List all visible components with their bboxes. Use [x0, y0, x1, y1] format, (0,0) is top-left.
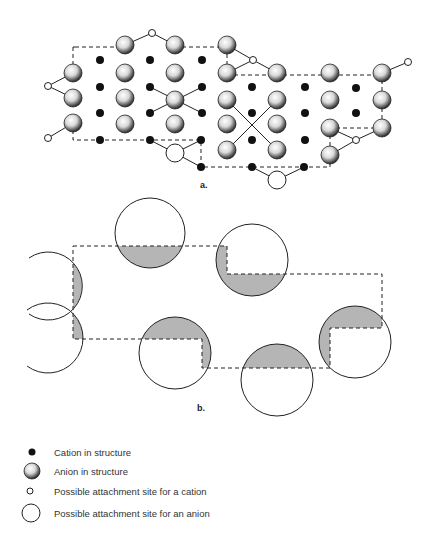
- large-open-circle-icon: [22, 504, 40, 522]
- small-open-circle-icon: [27, 488, 33, 494]
- panel-b-label: b.: [197, 403, 205, 413]
- panel-a-label: a.: [200, 180, 208, 190]
- overlap-shading: [13, 198, 391, 416]
- legend-label-cation-site: Possible attachment site for a cation: [54, 486, 207, 497]
- anion-site-circles: [27, 198, 391, 416]
- legend-label-anion: Anion in structure: [54, 466, 128, 477]
- figure-canvas: a. b. Cation in structure: [0, 0, 441, 536]
- legend-label-cation: Cation in structure: [54, 447, 131, 458]
- cation-dot-icon: [29, 449, 36, 456]
- anion-sphere-icon: [24, 463, 40, 479]
- panel-a: a.: [45, 30, 412, 191]
- panel-b: b.: [13, 198, 391, 416]
- legend: Cation in structure Anion in structure P…: [22, 447, 210, 522]
- stepped-outline-dashed: [73, 246, 382, 368]
- legend-label-anion-site: Possible attachment site for an anion: [54, 508, 210, 519]
